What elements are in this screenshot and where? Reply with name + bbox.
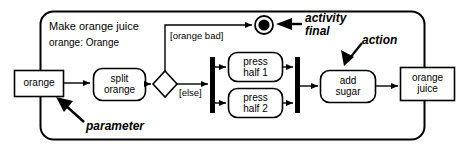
action-add-sugar-shape: [321, 71, 376, 103]
activity-diagram-canvas: Make orange juice orange: Orange orange …: [0, 0, 460, 149]
annotation-action: action: [362, 34, 397, 47]
input-parameter-box: [15, 71, 64, 97]
join-node-shape: [295, 57, 300, 113]
action-press-half-1-shape: [229, 53, 283, 82]
guard-orange-bad-label: [orange bad]: [170, 30, 223, 41]
output-parameter-box: [401, 68, 455, 101]
activity-frame-subtitle: orange: Orange: [49, 36, 119, 49]
guard-else-label: [else]: [179, 87, 202, 98]
action-press-half-2-shape: [229, 89, 283, 118]
action-split-orange-shape: [94, 69, 146, 101]
annotation-activity-final: activity final: [305, 12, 346, 38]
activity-final-node-inner: [258, 19, 269, 30]
activity-frame-title: Make orange juice: [49, 20, 139, 33]
annotation-parameter: parameter: [86, 120, 144, 133]
fork-node-shape: [210, 57, 215, 113]
